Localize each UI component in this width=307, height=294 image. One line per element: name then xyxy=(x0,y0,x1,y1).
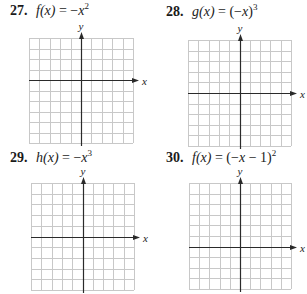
problem-number: 27. xyxy=(10,3,28,18)
coordinate-grid: xy xyxy=(189,183,291,289)
x-axis-label: x xyxy=(299,242,305,254)
problem-heading: 30. f(x) = (−x − 1)2 xyxy=(166,150,276,166)
expression-prefix: (− xyxy=(229,4,242,19)
coordinate-grid: xy xyxy=(31,183,134,290)
function-expression: f(x) = (−x − 1)2 xyxy=(192,150,276,165)
function-name: f(x) xyxy=(36,3,55,18)
exponent: 2 xyxy=(272,148,277,158)
x-axis-label: x xyxy=(141,75,147,87)
equals-sign: = xyxy=(59,3,67,18)
x-axis-arrow-icon xyxy=(290,91,297,96)
exponent: 3 xyxy=(253,2,258,12)
exponent: 2 xyxy=(84,1,89,11)
problem-number: 29. xyxy=(10,150,28,165)
y-axis-arrow-icon xyxy=(81,177,86,184)
exponent: 3 xyxy=(88,148,93,158)
function-expression: f(x) = −x2 xyxy=(36,3,89,18)
equals-sign: = xyxy=(218,4,226,19)
problem-heading: 29. h(x) = −x3 xyxy=(10,150,92,166)
function-expression: h(x) = −x3 xyxy=(36,150,92,165)
y-axis-label: y xyxy=(78,20,84,32)
x-axis-arrow-icon xyxy=(132,78,139,83)
equals-sign: = xyxy=(215,150,223,165)
y-axis-label: y xyxy=(237,22,243,34)
y-axis-arrow-icon xyxy=(79,32,84,39)
y-axis-label: y xyxy=(80,165,86,177)
x-axis-arrow-icon xyxy=(290,245,297,250)
expression-suffix: − 1) xyxy=(245,150,272,165)
function-name: h(x) xyxy=(36,150,59,165)
problem-number: 30. xyxy=(166,150,184,165)
y-axis-arrow-icon xyxy=(238,34,243,41)
y-axis-arrow-icon xyxy=(238,177,243,184)
expression-prefix: (− xyxy=(226,150,239,165)
function-name: f(x) xyxy=(192,150,211,165)
x-axis-arrow-icon xyxy=(133,235,140,240)
problem-number: 28. xyxy=(166,4,184,19)
coordinate-grid: xy xyxy=(188,40,291,146)
coordinate-grid: xy xyxy=(29,38,133,143)
y-axis-label: y xyxy=(237,165,243,177)
problem-heading: 28. g(x) = (−x)3 xyxy=(166,4,257,20)
x-axis-label: x xyxy=(299,88,305,100)
function-expression: g(x) = (−x)3 xyxy=(192,4,257,19)
function-name: g(x) xyxy=(192,4,215,19)
problem-heading: 27. f(x) = −x2 xyxy=(10,3,89,19)
equals-sign: = xyxy=(62,150,70,165)
x-axis-label: x xyxy=(142,232,148,244)
